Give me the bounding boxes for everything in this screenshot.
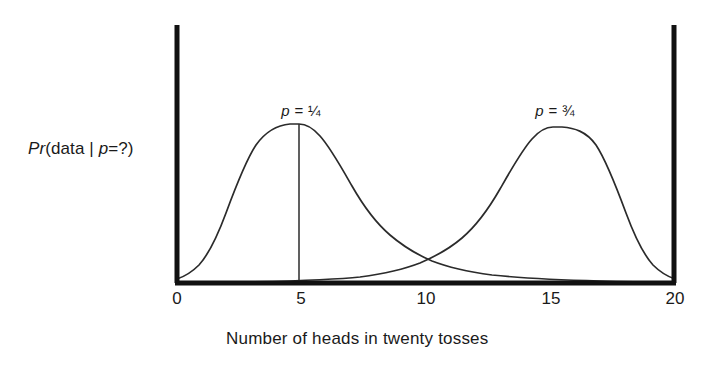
y-axis-label-open: (data | bbox=[45, 139, 98, 158]
annotation-p-three-quarters: p = ¾ bbox=[535, 103, 574, 118]
plot-area bbox=[0, 0, 707, 373]
y-axis-label-p: p bbox=[99, 139, 109, 158]
curve-p-one-quarter bbox=[177, 124, 675, 282]
x-tick-label-5: 5 bbox=[296, 290, 305, 307]
binomial-likelihood-figure: Pr(data | p=?) 0 5 10 15 20 Number of he… bbox=[0, 0, 707, 373]
curve-p-three-quarters bbox=[177, 127, 675, 283]
annotation-p-one-quarter: p = ¼ bbox=[281, 103, 320, 118]
y-axis-label: Pr(data | p=?) bbox=[28, 140, 134, 157]
y-axis-label-pr: Pr bbox=[28, 139, 45, 158]
y-axis-label-close: =?) bbox=[108, 139, 133, 158]
x-axis-title: Number of heads in twenty tosses bbox=[226, 330, 488, 347]
annotation-fraction-left: ¼ bbox=[308, 102, 321, 119]
x-tick-label-20: 20 bbox=[666, 290, 685, 307]
annotation-equals-right: = bbox=[544, 102, 562, 119]
annotation-equals-left: = bbox=[290, 102, 308, 119]
annotation-p-symbol-left: p bbox=[281, 102, 290, 119]
annotation-p-symbol-right: p bbox=[535, 102, 544, 119]
x-tick-label-15: 15 bbox=[542, 290, 561, 307]
annotation-fraction-right: ¾ bbox=[562, 102, 575, 119]
x-tick-label-0: 0 bbox=[172, 290, 181, 307]
x-tick-label-10: 10 bbox=[417, 290, 436, 307]
